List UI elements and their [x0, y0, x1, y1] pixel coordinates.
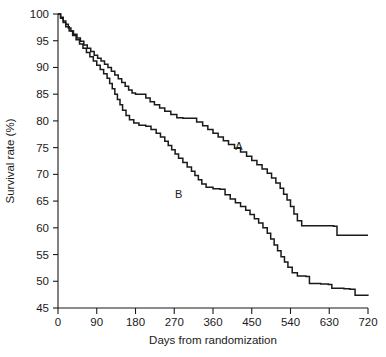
- curve-annotations: AB: [175, 140, 243, 200]
- survival-curve-chart: 4550556065707580859095100 09018027036045…: [0, 0, 386, 357]
- y-tick-label: 100: [30, 8, 49, 20]
- x-tick-label: 0: [55, 316, 61, 328]
- x-tick-label: 630: [320, 316, 339, 328]
- curve-label-A: A: [235, 140, 243, 152]
- y-tick-label: 85: [36, 88, 49, 100]
- y-tick-label: 45: [36, 302, 49, 314]
- y-tick-label: 80: [36, 115, 49, 127]
- y-tick-label: 55: [36, 249, 49, 261]
- x-tick-label: 360: [203, 316, 222, 328]
- y-tick-label: 60: [36, 222, 49, 234]
- y-tick-label: 95: [36, 35, 49, 47]
- curve-label-B: B: [175, 188, 182, 200]
- km-curve-B: [58, 14, 368, 296]
- x-axis: 090180270360450540630720: [55, 308, 378, 328]
- x-tick-label: 450: [242, 316, 261, 328]
- x-tick-label: 90: [90, 316, 103, 328]
- curve-paths: [58, 14, 368, 296]
- y-tick-label: 90: [36, 61, 49, 73]
- y-axis: 4550556065707580859095100: [30, 8, 58, 314]
- km-curve-A: [58, 14, 368, 235]
- x-tick-label: 180: [126, 316, 145, 328]
- y-tick-label: 75: [36, 142, 49, 154]
- chart-page: 4550556065707580859095100 09018027036045…: [0, 0, 386, 357]
- y-axis-title: Survival rate (%): [4, 118, 16, 203]
- x-axis-title: Days from randomization: [149, 334, 277, 346]
- x-tick-label: 720: [358, 316, 377, 328]
- x-tick-label: 540: [281, 316, 300, 328]
- x-tick-label: 270: [165, 316, 184, 328]
- y-tick-label: 65: [36, 195, 49, 207]
- y-tick-label: 50: [36, 275, 49, 287]
- y-tick-label: 70: [36, 168, 49, 180]
